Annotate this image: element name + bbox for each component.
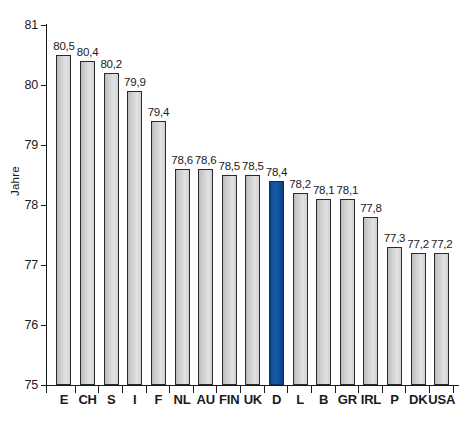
bar-value-label: 77,2 [407, 238, 429, 250]
x-axis-label-group: ECHSIFNLAUFINUKDLBGRIRLPDKUSA [47, 392, 459, 416]
bar-value-label: 78,6 [195, 154, 217, 166]
x-axis-label-irl: IRL [361, 392, 381, 407]
bar-value-label: 80,2 [100, 58, 122, 70]
bar[interactable]: 77,3 [387, 247, 402, 385]
y-tick-label: 76 [24, 318, 38, 332]
y-tick-label: 81 [24, 18, 38, 32]
bar-value-label: 77,2 [431, 238, 453, 250]
bar[interactable]: 78,6 [198, 169, 213, 385]
y-axis-title: Jahre [9, 166, 21, 196]
x-axis-label-s: S [107, 392, 115, 407]
bar[interactable]: 78,5 [222, 175, 237, 385]
bar[interactable]: 79,9 [127, 91, 142, 385]
x-axis-label-au: AU [196, 392, 214, 407]
y-tick-label: 80 [24, 78, 38, 92]
bar-chart: Jahre 81807978777675 80,580,480,279,979,… [0, 0, 469, 424]
x-axis-label-l: L [296, 392, 304, 407]
bar-value-label: 78,6 [171, 154, 193, 166]
x-axis-label-fin: FIN [219, 392, 239, 407]
bar-value-label: 80,4 [77, 46, 99, 58]
bar-value-label: 77,3 [384, 232, 406, 244]
y-tick-label: 77 [24, 258, 38, 272]
bar-value-label: 79,4 [148, 106, 170, 118]
bar-value-label: 77,8 [360, 202, 382, 214]
x-axis-label-uk: UK [244, 392, 262, 407]
bar-group: 80,580,480,279,979,478,678,678,578,578,4… [47, 25, 459, 385]
bar[interactable]: 78,6 [175, 169, 190, 385]
bar[interactable]: 77,2 [434, 253, 449, 385]
bar-highlighted[interactable]: 78,4 [269, 181, 284, 385]
bar-value-label: 78,4 [266, 166, 288, 178]
x-axis-label-i: I [133, 392, 136, 407]
bar-value-label: 80,5 [53, 40, 75, 52]
bar[interactable]: 77,8 [363, 217, 378, 385]
bar[interactable]: 80,4 [80, 61, 95, 385]
x-axis-label-gr: GR [338, 392, 357, 407]
x-axis-label-usa: USA [428, 392, 455, 407]
bar-value-label: 78,5 [218, 160, 240, 172]
bar[interactable]: 79,4 [151, 121, 166, 385]
bar[interactable]: 78,1 [340, 199, 355, 385]
x-axis-label-f: F [155, 392, 163, 407]
plot-area: 81807978777675 80,580,480,279,979,478,67… [47, 25, 459, 385]
bar[interactable]: 80,2 [104, 73, 119, 385]
bar[interactable]: 80,5 [56, 55, 71, 385]
x-axis-label-p: P [390, 392, 398, 407]
bar-value-label: 78,2 [289, 178, 311, 190]
bar[interactable]: 77,2 [411, 253, 426, 385]
bar[interactable]: 78,1 [316, 199, 331, 385]
y-tick-label: 75 [24, 378, 38, 392]
x-axis-label-b: B [319, 392, 328, 407]
x-axis-label-ch: CH [78, 392, 96, 407]
x-axis-label-e: E [60, 392, 68, 407]
bar[interactable]: 78,2 [293, 193, 308, 385]
bar-value-label: 78,1 [313, 184, 335, 196]
y-tick-label: 78 [24, 198, 38, 212]
x-axis-label-d: D [272, 392, 281, 407]
bar-value-label: 79,9 [124, 76, 146, 88]
bar-value-label: 78,5 [242, 160, 264, 172]
bar[interactable]: 78,5 [245, 175, 260, 385]
y-tick-label: 79 [24, 138, 38, 152]
x-axis-label-nl: NL [174, 392, 191, 407]
bar-value-label: 78,1 [337, 184, 359, 196]
x-axis-label-dk: DK [409, 392, 427, 407]
